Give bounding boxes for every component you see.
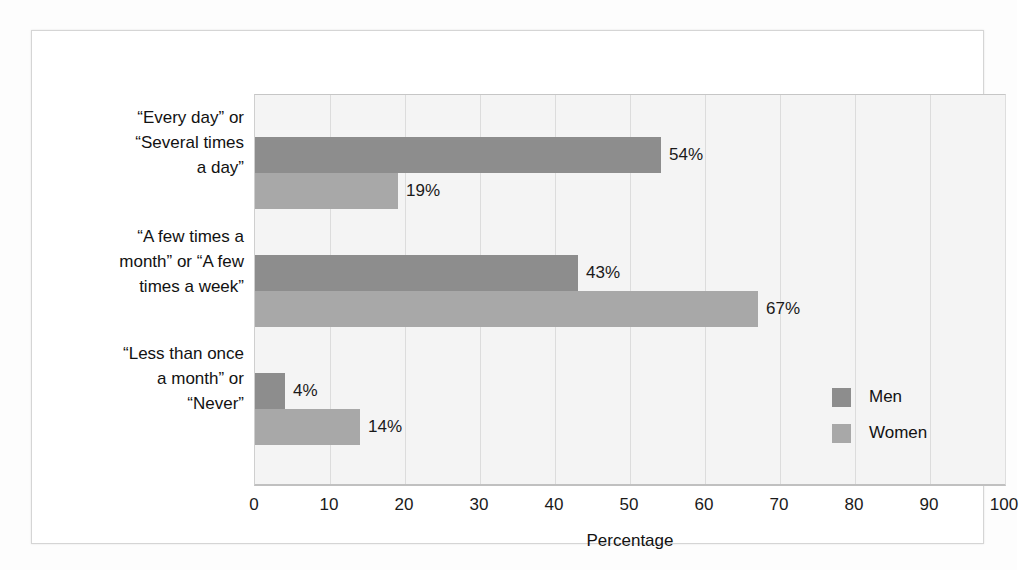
- legend-swatch-women-icon: [832, 424, 851, 443]
- legend: Men Women: [832, 379, 972, 451]
- bar-women-2[interactable]: [255, 409, 360, 445]
- xtick-80: 80: [832, 495, 876, 515]
- xtick-50: 50: [607, 495, 651, 515]
- bar-men-2[interactable]: [255, 373, 285, 409]
- value-label-men-1: 43%: [586, 255, 620, 291]
- value-label-women-2: 14%: [368, 409, 402, 445]
- xtick-30: 30: [457, 495, 501, 515]
- category-label-1: “A few times a month” or “A few times a …: [119, 224, 244, 299]
- legend-label-women: Women: [869, 423, 927, 443]
- xtick-60: 60: [682, 495, 726, 515]
- value-label-women-0: 19%: [406, 173, 440, 209]
- xtick-20: 20: [382, 495, 426, 515]
- chart-frame: “Every day” or “Several times a day” “A …: [31, 30, 984, 544]
- xtick-0: 0: [232, 495, 276, 515]
- legend-item-men[interactable]: Men: [832, 379, 972, 415]
- gridline-70: [780, 95, 781, 484]
- value-label-men-2: 4%: [293, 373, 318, 409]
- xtick-70: 70: [757, 495, 801, 515]
- category-label-0: “Every day” or “Several times a day”: [135, 105, 244, 180]
- category-label-2: “Less than once a month” or “Never”: [123, 341, 244, 416]
- legend-label-men: Men: [869, 387, 902, 407]
- xtick-100: 100: [982, 495, 1023, 515]
- value-label-women-1: 67%: [766, 291, 800, 327]
- bar-men-0[interactable]: [255, 137, 661, 173]
- xtick-40: 40: [532, 495, 576, 515]
- gridline-60: [705, 95, 706, 484]
- legend-swatch-men-icon: [832, 388, 851, 407]
- xtick-90: 90: [907, 495, 951, 515]
- bar-women-1[interactable]: [255, 291, 758, 327]
- bar-women-0[interactable]: [255, 173, 398, 209]
- value-label-men-0: 54%: [669, 137, 703, 173]
- x-axis-title: Percentage: [254, 531, 1006, 551]
- xtick-10: 10: [307, 495, 351, 515]
- bar-men-1[interactable]: [255, 255, 578, 291]
- legend-item-women[interactable]: Women: [832, 415, 972, 451]
- category-axis-labels: “Every day” or “Several times a day” “A …: [72, 31, 244, 491]
